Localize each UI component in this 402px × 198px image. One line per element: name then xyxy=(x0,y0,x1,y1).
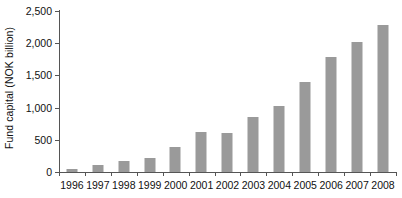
x-axis-line xyxy=(59,172,397,173)
bar xyxy=(118,161,129,172)
bar-slot xyxy=(163,11,189,172)
x-axis-tick-mark xyxy=(396,172,397,176)
bar xyxy=(170,147,181,172)
bar-slot xyxy=(59,11,85,172)
bar xyxy=(196,132,207,172)
bar xyxy=(92,165,103,172)
bar-slot xyxy=(370,11,396,172)
y-axis-tick-label: 1,000 xyxy=(26,102,52,114)
x-axis-tick-mark xyxy=(370,172,371,176)
x-axis-tick-mark xyxy=(85,172,86,176)
y-axis-tick-label: 0 xyxy=(46,166,52,178)
x-axis-tick-mark xyxy=(59,172,60,176)
bar-chart-figure: Fund capital (NOK billion) 05001,0001,50… xyxy=(0,0,402,198)
x-axis-tick-mark xyxy=(344,172,345,176)
bar-slot xyxy=(292,11,318,172)
y-axis-tick-label: 2,000 xyxy=(26,37,52,49)
x-axis-tick-mark xyxy=(292,172,293,176)
bar-slot xyxy=(266,11,292,172)
bar-slot xyxy=(318,11,344,172)
bar xyxy=(377,25,388,172)
x-axis-tick-mark xyxy=(111,172,112,176)
y-axis-title: Fund capital (NOK billion) xyxy=(0,0,18,176)
x-axis-tick-label: 2008 xyxy=(366,179,400,191)
y-axis-tick-label: 1,500 xyxy=(26,69,52,81)
x-axis-tick-mark xyxy=(240,172,241,176)
x-axis-tick-mark xyxy=(137,172,138,176)
bar-slot xyxy=(111,11,137,172)
bar xyxy=(66,169,77,172)
x-axis-tick-mark xyxy=(266,172,267,176)
x-axis-tick-mark xyxy=(318,172,319,176)
bar-slot xyxy=(137,11,163,172)
bar xyxy=(248,117,259,172)
bar-slot xyxy=(215,11,241,172)
plot-area xyxy=(59,11,396,172)
y-axis-title-label: Fund capital (NOK billion) xyxy=(3,27,15,149)
y-axis-tick-label: 500 xyxy=(34,134,52,146)
x-axis-tick-mark xyxy=(189,172,190,176)
bar xyxy=(326,57,337,172)
x-axis-tick-mark xyxy=(215,172,216,176)
bar-slot xyxy=(344,11,370,172)
bar xyxy=(300,82,311,172)
bar-slot xyxy=(240,11,266,172)
bar xyxy=(222,133,233,172)
y-axis-tick-label: 2,500 xyxy=(26,5,52,17)
bar-slot xyxy=(85,11,111,172)
bar xyxy=(144,158,155,172)
bar-slot xyxy=(189,11,215,172)
x-axis-tick-mark xyxy=(163,172,164,176)
bar xyxy=(274,106,285,172)
bar xyxy=(351,42,362,172)
